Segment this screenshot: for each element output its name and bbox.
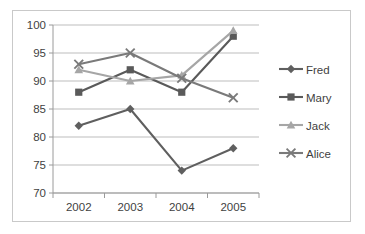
gridlines-group bbox=[53, 25, 259, 193]
y-tick-label: 85 bbox=[33, 103, 46, 115]
series-fred bbox=[75, 105, 238, 175]
x-tick-label: 2005 bbox=[220, 201, 246, 213]
data-point-triangle bbox=[229, 26, 238, 34]
data-point-square bbox=[287, 93, 294, 100]
legend-label: Mary bbox=[306, 92, 332, 104]
legend-label: Jack bbox=[306, 120, 330, 132]
y-tick-label: 100 bbox=[27, 19, 46, 31]
series-line-mary bbox=[79, 36, 234, 92]
y-tick-label: 95 bbox=[33, 47, 46, 59]
y-tick-label: 90 bbox=[33, 75, 46, 87]
data-point-cross bbox=[229, 93, 238, 102]
square-marker bbox=[178, 89, 185, 96]
data-point-diamond bbox=[75, 122, 83, 130]
y-tick-labels: 707580859095100 bbox=[27, 19, 46, 199]
triangle-marker bbox=[229, 26, 238, 34]
data-point-square bbox=[127, 66, 134, 73]
chart-legend: FredMaryJackAlice bbox=[279, 64, 332, 160]
diamond-marker bbox=[287, 65, 295, 73]
square-marker bbox=[127, 66, 134, 73]
y-tick-marks bbox=[49, 25, 53, 193]
legend-item-mary[interactable]: Mary bbox=[279, 92, 332, 104]
square-marker bbox=[287, 93, 294, 100]
y-axis-group: 707580859095100 bbox=[27, 19, 53, 199]
x-tick-label: 2004 bbox=[169, 201, 195, 213]
legend-item-alice[interactable]: Alice bbox=[279, 148, 331, 160]
data-series-group bbox=[74, 26, 237, 175]
diamond-marker bbox=[229, 144, 237, 152]
x-tick-label: 2002 bbox=[66, 201, 92, 213]
legend-label: Fred bbox=[306, 64, 330, 76]
x-tick-labels: 2002200320042005 bbox=[66, 201, 246, 213]
data-point-square bbox=[75, 89, 82, 96]
x-axis-group: 2002200320042005 bbox=[53, 193, 259, 213]
x-tick-marks bbox=[53, 193, 259, 198]
legend-item-jack[interactable]: Jack bbox=[279, 120, 330, 132]
legend-item-fred[interactable]: Fred bbox=[279, 64, 330, 76]
legend-label: Alice bbox=[306, 148, 331, 160]
x-tick-label: 2003 bbox=[117, 201, 143, 213]
y-tick-label: 80 bbox=[33, 131, 46, 143]
series-jack bbox=[74, 26, 237, 84]
series-line-jack bbox=[79, 31, 234, 81]
square-marker bbox=[75, 89, 82, 96]
diamond-marker bbox=[75, 122, 83, 130]
y-tick-label: 70 bbox=[33, 187, 46, 199]
line-chart-svg: 707580859095100 2002200320042005 FredMar… bbox=[13, 11, 352, 223]
data-point-diamond bbox=[287, 65, 295, 73]
chart-container: 707580859095100 2002200320042005 FredMar… bbox=[12, 10, 351, 222]
series-mary bbox=[75, 33, 237, 96]
data-point-diamond bbox=[229, 144, 237, 152]
y-tick-label: 75 bbox=[33, 159, 46, 171]
series-line-fred bbox=[79, 109, 234, 171]
chart-plot-wrapper: 707580859095100 2002200320042005 FredMar… bbox=[13, 11, 350, 221]
data-point-square bbox=[178, 89, 185, 96]
